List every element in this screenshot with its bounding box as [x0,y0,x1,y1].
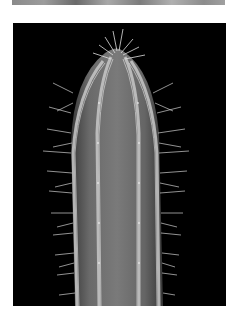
cactus-illustration [13,23,226,306]
top-photo-strip [12,0,225,5]
cactus-photo [13,23,226,306]
